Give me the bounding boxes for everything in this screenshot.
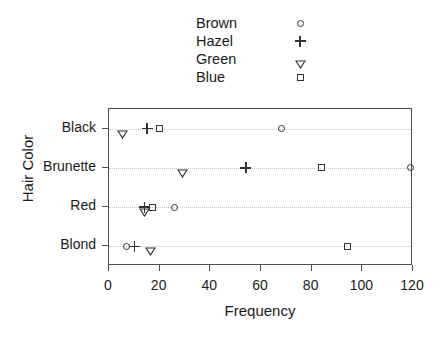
y-tick-label-blond: Blond (4, 236, 96, 252)
plot-panel (108, 108, 412, 265)
x-tick (311, 265, 312, 271)
circle-icon (297, 20, 304, 27)
legend-item-label: Blue (196, 68, 274, 86)
legend-item-hazel: Hazel (196, 32, 336, 50)
square-icon (318, 164, 325, 171)
x-tick (159, 265, 160, 271)
legend-marker-plus-icon (292, 32, 308, 50)
gridline-brunette (109, 168, 411, 169)
legend: BrownHazelGreenBlue (196, 14, 336, 92)
legend-item-label: Hazel (196, 32, 274, 50)
y-tick (102, 206, 108, 207)
x-tick (361, 265, 362, 271)
square-icon (156, 125, 163, 132)
triangle-down-icon (177, 165, 187, 172)
x-tick-label: 60 (240, 277, 280, 293)
legend-item-green: Green (196, 50, 336, 68)
square-icon (149, 204, 156, 211)
dot-plot-figure: BrownHazelGreenBlue BlackBrunetteRedBlon… (0, 0, 440, 341)
legend-item-label: Green (196, 50, 274, 68)
square-icon (344, 243, 351, 250)
x-tick-label: 120 (392, 277, 432, 293)
y-tick (102, 128, 108, 129)
x-tick-label: 40 (189, 277, 229, 293)
x-tick-label: 0 (88, 277, 128, 293)
legend-item-blue: Blue (196, 68, 336, 86)
x-tick-label: 80 (291, 277, 331, 293)
x-tick (108, 265, 109, 271)
x-tick (209, 265, 210, 271)
x-tick-label: 100 (341, 277, 381, 293)
y-tick (102, 245, 108, 246)
circle-icon (171, 204, 178, 211)
legend-item-label: Brown (196, 14, 274, 32)
x-axis-title: Frequency (108, 302, 412, 319)
legend-marker-circle-icon (292, 14, 308, 32)
circle-icon (407, 164, 414, 171)
legend-marker-square-icon (292, 68, 308, 86)
gridline-black (109, 129, 411, 130)
x-tick (412, 265, 413, 271)
y-tick (102, 167, 108, 168)
x-tick (260, 265, 261, 271)
y-axis-title: Hair Color (19, 99, 36, 239)
triangle-down-icon (117, 126, 127, 133)
triangle-down-icon (145, 243, 155, 250)
legend-item-brown: Brown (196, 14, 336, 32)
legend-marker-triangle-down-icon (292, 50, 308, 68)
x-tick-label: 20 (139, 277, 179, 293)
square-icon (297, 74, 304, 81)
triangle-down-icon (295, 56, 305, 63)
circle-icon (278, 125, 285, 132)
